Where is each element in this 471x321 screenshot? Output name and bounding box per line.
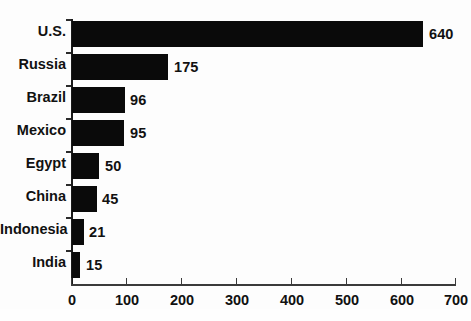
scan-artifact <box>0 309 471 321</box>
x-axis-tick <box>346 278 347 285</box>
bar-value-china: 45 <box>102 191 118 207</box>
x-axis-line <box>71 284 456 286</box>
bar-mexico <box>72 120 124 146</box>
bar-russia <box>72 54 168 80</box>
y-axis-label-6: Indonesia <box>0 216 66 242</box>
x-axis-tick-label-3: 300 <box>225 292 249 308</box>
y-axis-label-4: Egypt <box>0 150 66 176</box>
x-axis-tick <box>126 278 127 285</box>
y-axis-label-5: China <box>0 183 66 209</box>
x-axis-tick <box>71 278 72 285</box>
bar-value-india: 15 <box>86 257 102 273</box>
bar-egypt <box>72 153 99 179</box>
bar-india <box>72 252 80 278</box>
x-axis-tick-label-7: 700 <box>444 292 468 308</box>
x-axis-tick-label-2: 200 <box>170 292 194 308</box>
bar-us <box>72 21 423 47</box>
bar-value-mexico: 95 <box>130 125 146 141</box>
y-axis-label-0: U.S. <box>0 18 66 44</box>
x-axis-tick-label-5: 500 <box>335 292 359 308</box>
bar-value-egypt: 50 <box>105 158 121 174</box>
x-axis-tick <box>401 278 402 285</box>
y-axis-label-1: Russia <box>0 51 66 77</box>
x-axis-tick-label-6: 600 <box>390 292 414 308</box>
x-axis-tick <box>181 278 182 285</box>
bar-value-us: 640 <box>429 26 454 42</box>
y-axis-label-2: Brazil <box>0 84 66 110</box>
x-axis-tick-label-0: 0 <box>68 292 76 308</box>
y-axis-label-3: Mexico <box>0 117 66 143</box>
bar-china <box>72 186 97 212</box>
plot-area: 640 175 96 95 50 45 21 15 <box>72 18 456 284</box>
bar-chart: U.S. Russia Brazil Mexico Egypt China In… <box>0 0 471 321</box>
x-axis-tick <box>455 278 456 285</box>
bar-indonesia <box>72 219 84 245</box>
x-axis-tick-label-1: 100 <box>115 292 139 308</box>
bar-value-indonesia: 21 <box>89 224 105 240</box>
bar-value-russia: 175 <box>174 59 199 75</box>
x-axis-tick <box>236 278 237 285</box>
x-axis-tick <box>291 278 292 285</box>
y-axis-label-7: India <box>0 249 66 275</box>
y-axis-category-labels: U.S. Russia Brazil Mexico Egypt China In… <box>0 18 66 284</box>
x-axis-tick-label-4: 400 <box>280 292 304 308</box>
bar-value-brazil: 96 <box>130 92 146 108</box>
bar-brazil <box>72 87 125 113</box>
